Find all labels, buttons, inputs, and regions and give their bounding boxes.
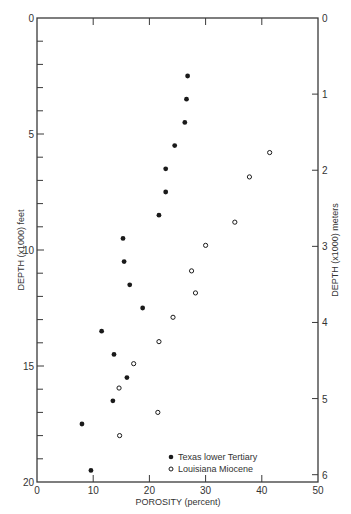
data-point-filled xyxy=(99,329,104,334)
legend-label-texas: Texas lower Tertiary xyxy=(178,452,258,462)
y-right-tick-label: 3 xyxy=(322,241,328,252)
data-point-open xyxy=(268,150,272,154)
y-right-tick-label: 2 xyxy=(322,165,328,176)
data-point-open xyxy=(193,291,197,295)
axes xyxy=(37,18,318,482)
data-point-filled xyxy=(121,236,126,241)
x-tick-label: 40 xyxy=(256,485,268,496)
legend-label-louisiana: Louisiana Miocene xyxy=(178,464,253,474)
x-axis-label: POROSITY (percent) xyxy=(136,497,221,507)
data-point-filled xyxy=(157,213,162,218)
data-point-open xyxy=(204,243,208,247)
porosity-depth-chart: 01020304050051015200123456 POROSITY (per… xyxy=(0,0,351,514)
y-axis-left-label: DEPTH (x1000) feet xyxy=(16,209,26,291)
x-tick-label: 20 xyxy=(144,485,156,496)
data-point-open xyxy=(247,175,251,179)
data-point-open xyxy=(233,220,237,224)
data-point-filled xyxy=(140,306,145,311)
x-tick-label: 10 xyxy=(88,485,100,496)
data-point-open xyxy=(118,434,122,438)
series-texas-lower-tertiary xyxy=(80,74,190,473)
tick-labels: 01020304050051015200123456 xyxy=(23,13,328,496)
data-point-open xyxy=(171,315,175,319)
data-point-filled xyxy=(163,190,168,195)
data-point-filled xyxy=(185,74,190,79)
y-right-tick-label: 0 xyxy=(322,13,328,24)
y-right-tick-label: 5 xyxy=(322,394,328,405)
series-louisiana-miocene xyxy=(117,150,272,437)
y-tick-label: 15 xyxy=(23,361,35,372)
y-tick-label: 5 xyxy=(28,129,34,140)
legend-filled-circle-icon xyxy=(169,455,174,460)
data-point-open xyxy=(132,362,136,366)
data-point-filled xyxy=(182,120,187,125)
legend-open-circle-icon xyxy=(169,467,173,471)
data-point-filled xyxy=(80,422,85,427)
plot-frame xyxy=(37,18,318,482)
data-point-filled xyxy=(163,166,168,171)
y-tick-label: 0 xyxy=(28,13,34,24)
data-point-filled xyxy=(110,398,115,403)
x-tick-label: 50 xyxy=(312,485,324,496)
ticks xyxy=(37,18,318,482)
y-tick-label: 20 xyxy=(23,477,35,488)
x-tick-label: 0 xyxy=(34,485,40,496)
data-point-open xyxy=(156,410,160,414)
data-point-filled xyxy=(125,375,130,380)
data-point-filled xyxy=(184,97,189,102)
y-right-tick-label: 1 xyxy=(322,89,328,100)
data-point-filled xyxy=(122,259,127,264)
y-right-tick-label: 6 xyxy=(322,470,328,481)
data-point-open xyxy=(117,386,121,390)
legend: Texas lower Tertiary Louisiana Miocene xyxy=(169,452,258,474)
data-point-filled xyxy=(112,352,117,357)
data-point-filled xyxy=(127,282,132,287)
x-tick-label: 30 xyxy=(200,485,212,496)
y-axis-right-label: DEPTH (x1000) meters xyxy=(330,203,340,297)
data-point-filled xyxy=(172,143,177,148)
data-point-open xyxy=(189,269,193,273)
y-right-tick-label: 4 xyxy=(322,317,328,328)
data-point-filled xyxy=(89,468,94,473)
data-point-open xyxy=(157,340,161,344)
